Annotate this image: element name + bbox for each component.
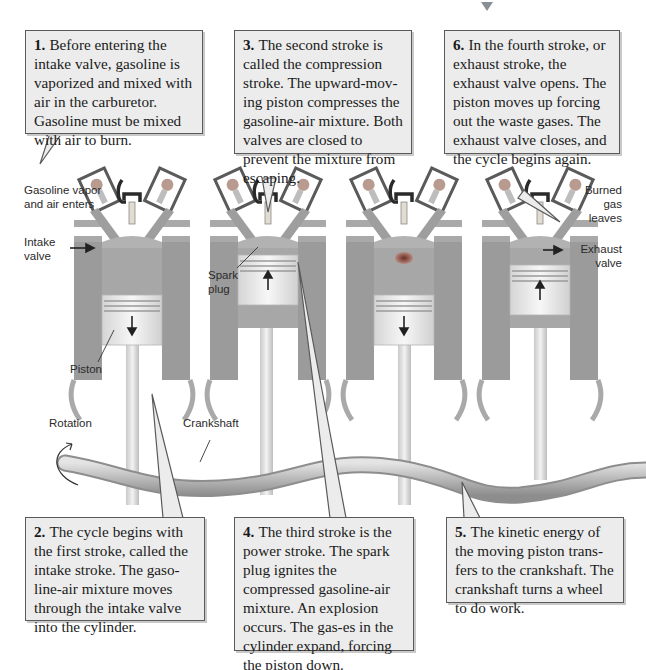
connecting-rod-3 [398, 340, 411, 505]
explosion-icon [395, 252, 413, 264]
engine-cycle-diagram: 1.Before entering the intake valve, gaso… [0, 0, 646, 670]
callout-step-1: 1.Before entering the intake valve, gaso… [25, 30, 203, 134]
label-spark-plug: Spark plug [208, 268, 248, 296]
label-piston: Piston [70, 362, 102, 376]
connecting-rod-4 [534, 310, 547, 480]
callout-step-3: 3.The second stroke is called the compre… [234, 30, 412, 154]
callout-step-2: 2.The cycle begins with the first stroke… [25, 517, 205, 621]
label-intake-valve: Intake valve [24, 235, 64, 263]
label-rotation: Rotation [49, 416, 92, 430]
callout-2-tail [152, 394, 183, 518]
label-exhaust-valve: Exhaust valve [570, 242, 622, 270]
callout-step-4: 4.The third stroke is the power stroke. … [234, 517, 414, 651]
label-crankshaft: Crankshaft [183, 416, 239, 430]
callout-step-6: 6.In the fourth stroke, or exhaust strok… [444, 30, 620, 154]
label-burned-gas: Burned gas leaves [570, 183, 622, 225]
callout-step-5: 5.The kinetic energy of the moving pisto… [446, 517, 624, 603]
label-gasoline-vapor: Gasoline vapor and air enters [24, 183, 104, 211]
